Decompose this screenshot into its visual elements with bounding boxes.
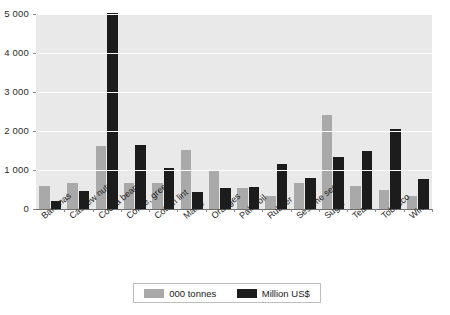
bar <box>333 157 344 209</box>
bar <box>249 187 260 209</box>
legend-item: Million US$ <box>237 288 310 299</box>
bar <box>220 188 231 209</box>
bar-group <box>206 14 234 209</box>
x-axis-line <box>36 209 432 210</box>
bar <box>96 146 107 209</box>
y-tick-label: 4 000 <box>4 48 29 58</box>
bar-group <box>404 14 432 209</box>
bar-group <box>149 14 177 209</box>
bar <box>152 183 163 209</box>
bar <box>181 150 192 209</box>
bar <box>107 13 118 209</box>
y-tick-label: 2 000 <box>4 126 29 136</box>
bar <box>322 115 333 209</box>
bar-chart: 01 0002 0003 0004 0005 000 BananasCashew… <box>0 0 450 315</box>
bar-group <box>319 14 347 209</box>
y-tick-label: 3 000 <box>4 87 29 97</box>
y-tick-label: 5 000 <box>4 9 29 19</box>
legend-swatch <box>144 289 164 298</box>
bar <box>67 183 78 209</box>
gridline <box>36 170 432 171</box>
bar-group <box>291 14 319 209</box>
bars-layer <box>36 14 432 209</box>
bar <box>164 168 175 209</box>
bar <box>305 178 316 209</box>
y-tick-label: 0 <box>24 204 29 214</box>
gridline <box>36 131 432 132</box>
bar-group <box>121 14 149 209</box>
bar <box>362 151 373 209</box>
bar <box>124 183 135 209</box>
bar-group <box>93 14 121 209</box>
bar <box>350 186 361 209</box>
bar <box>79 191 90 209</box>
bar-group <box>234 14 262 209</box>
legend-swatch <box>237 289 257 298</box>
bar <box>135 145 146 209</box>
bar-group <box>36 14 64 209</box>
gridline <box>36 92 432 93</box>
chart-legend: 000 tonnesMillion US$ <box>133 283 321 303</box>
plot-area <box>36 14 432 209</box>
bar <box>407 196 418 209</box>
bar <box>418 179 429 209</box>
y-tick-label: 1 000 <box>4 165 29 175</box>
legend-label: Million US$ <box>262 288 310 299</box>
bar-group <box>262 14 290 209</box>
bar <box>294 183 305 209</box>
bar <box>379 190 390 209</box>
bar-group <box>347 14 375 209</box>
bar-group <box>375 14 403 209</box>
bar-group <box>64 14 92 209</box>
legend-label: 000 tonnes <box>169 288 216 299</box>
bar <box>237 188 248 209</box>
x-tick-mark <box>432 209 433 212</box>
bar <box>265 196 276 209</box>
bar <box>39 186 50 209</box>
bar <box>192 192 203 209</box>
bar <box>277 164 288 209</box>
y-axis: 01 0002 0003 0004 0005 000 <box>0 0 33 315</box>
gridline <box>36 53 432 54</box>
bar <box>51 201 62 209</box>
bar-group <box>177 14 205 209</box>
bar <box>209 170 220 209</box>
legend-item: 000 tonnes <box>144 288 216 299</box>
gridline <box>36 14 432 15</box>
